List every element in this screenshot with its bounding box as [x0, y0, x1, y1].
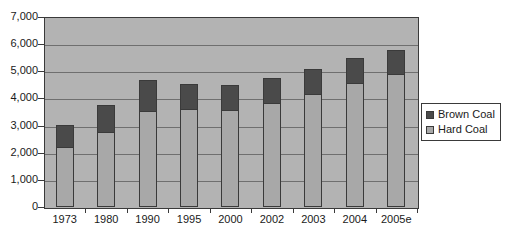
legend-label-hard-coal: Hard Coal: [438, 124, 488, 135]
bar-stack[interactable]: [346, 58, 364, 207]
bar-segment-brown-coal[interactable]: [263, 78, 281, 103]
bar-group: [210, 17, 251, 207]
bar-group: [293, 17, 334, 207]
bar-group: [127, 17, 168, 207]
y-tick-mark: [38, 44, 44, 45]
stacked-bar-chart: 01,0002,0003,0004,0005,0006,0007,000 197…: [0, 0, 506, 247]
bar-segment-brown-coal[interactable]: [221, 85, 239, 110]
x-tick-mark: [251, 208, 252, 213]
x-tick-mark: [168, 208, 169, 213]
y-tick-mark: [38, 153, 44, 154]
bar-segment-hard-coal[interactable]: [180, 109, 198, 207]
x-tick-label: 2002: [251, 213, 292, 225]
x-tick-label: 2003: [293, 213, 334, 225]
bar-segment-hard-coal[interactable]: [97, 132, 115, 207]
bar-stack[interactable]: [387, 50, 405, 207]
bar-stack[interactable]: [180, 84, 198, 207]
y-tick-mark: [38, 126, 44, 127]
x-tick-mark: [127, 208, 128, 213]
bar-segment-brown-coal[interactable]: [56, 125, 74, 147]
y-tick-mark: [38, 98, 44, 99]
bar-group: [376, 17, 417, 207]
x-tick-label: 1973: [44, 213, 85, 225]
bar-segment-brown-coal[interactable]: [387, 50, 405, 74]
bar-group: [168, 17, 209, 207]
legend-item-hard-coal[interactable]: Hard Coal: [426, 122, 495, 137]
x-tick-mark: [417, 208, 418, 213]
x-tick-label: 1995: [168, 213, 209, 225]
bar-group: [334, 17, 375, 207]
bar-segment-brown-coal[interactable]: [139, 80, 157, 111]
y-tick-label: 7,000: [10, 11, 38, 22]
x-tick-mark: [376, 208, 377, 213]
y-tick-label: 3,000: [10, 120, 38, 131]
bar-segment-brown-coal[interactable]: [180, 84, 198, 109]
bar-segment-hard-coal[interactable]: [56, 147, 74, 207]
chart-legend: Brown Coal Hard Coal: [421, 103, 501, 141]
x-tick-label: 2004: [334, 213, 375, 225]
bar-stack[interactable]: [304, 69, 322, 207]
y-tick-label: 5,000: [10, 65, 38, 76]
bar-segment-hard-coal[interactable]: [139, 111, 157, 207]
x-axis: 197319801990199520002002200320042005e: [44, 213, 417, 233]
bar-group: [85, 17, 126, 207]
bar-segment-hard-coal[interactable]: [263, 103, 281, 208]
legend-item-brown-coal[interactable]: Brown Coal: [426, 107, 495, 122]
y-tick-label: 1,000: [10, 174, 38, 185]
x-tick-label: 1980: [85, 213, 126, 225]
y-tick-mark: [38, 71, 44, 72]
y-tick-label: 4,000: [10, 92, 38, 103]
bar-segment-hard-coal[interactable]: [387, 74, 405, 207]
x-tick-label: 2005e: [376, 213, 417, 225]
bar-segment-hard-coal[interactable]: [346, 83, 364, 207]
y-tick-mark: [38, 17, 44, 18]
bar-segment-hard-coal[interactable]: [221, 110, 239, 207]
bar-stack[interactable]: [56, 125, 74, 207]
y-axis: 01,0002,0003,0004,0005,0006,0007,000: [0, 0, 38, 247]
x-tick-mark: [210, 208, 211, 213]
bar-segment-brown-coal[interactable]: [346, 58, 364, 83]
bar-stack[interactable]: [263, 78, 281, 207]
legend-swatch-brown-coal: [426, 111, 434, 119]
y-tick-mark: [38, 180, 44, 181]
x-tick-mark: [85, 208, 86, 213]
bars-layer: [44, 17, 417, 207]
bar-segment-hard-coal[interactable]: [304, 94, 322, 207]
bar-group: [44, 17, 85, 207]
x-tick-mark: [334, 208, 335, 213]
bar-stack[interactable]: [97, 105, 115, 207]
y-tick-label: 6,000: [10, 38, 38, 49]
bar-stack[interactable]: [139, 80, 157, 207]
legend-swatch-hard-coal: [426, 126, 434, 134]
bar-stack[interactable]: [221, 85, 239, 207]
x-tick-label: 2000: [210, 213, 251, 225]
bar-segment-brown-coal[interactable]: [304, 69, 322, 94]
x-tick-label: 1990: [127, 213, 168, 225]
bar-group: [251, 17, 292, 207]
y-tick-mark: [38, 207, 44, 208]
y-tick-label: 2,000: [10, 147, 38, 158]
legend-label-brown-coal: Brown Coal: [438, 109, 495, 120]
bar-segment-brown-coal[interactable]: [97, 105, 115, 131]
x-tick-mark: [293, 208, 294, 213]
